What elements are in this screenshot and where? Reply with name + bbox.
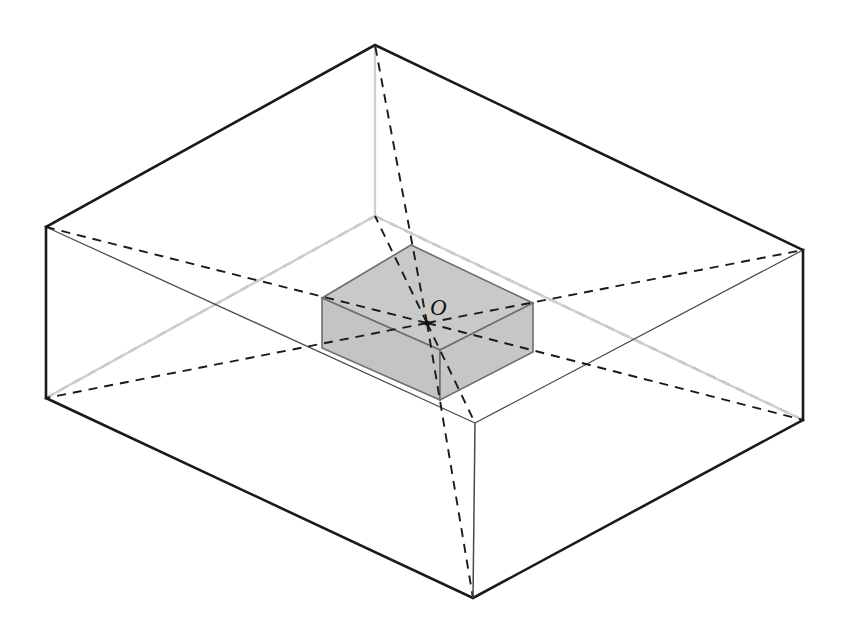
figure-root: O <box>0 0 850 633</box>
center-point-dot <box>424 320 429 325</box>
center-rays <box>46 45 803 598</box>
outer-box-front-edges <box>473 423 475 598</box>
edge-top-back-ridge <box>46 45 803 250</box>
center-point-label: O <box>430 295 447 320</box>
edge-bottom-front-ridge <box>46 398 803 598</box>
geometry-diagram-canvas: O <box>0 0 850 633</box>
edge-front-vertical <box>473 423 475 598</box>
